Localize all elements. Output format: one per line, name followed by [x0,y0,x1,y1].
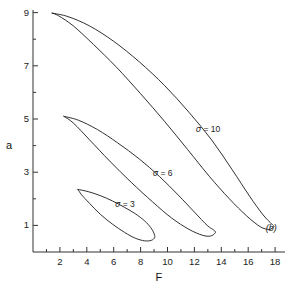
y-tick-label: 1 [15,219,29,230]
x-tick-label: 10 [157,256,179,267]
x-tick-label: 16 [237,256,259,267]
tick-marks [33,13,275,252]
series-annotation: σ = 6 [153,168,173,178]
x-tick-label: 12 [183,256,205,267]
x-tick-label: 2 [49,256,71,267]
x-tick-label: 6 [103,256,125,267]
y-tick-label: 5 [15,113,29,124]
y-tick-label: 9 [15,7,29,18]
y-axis-title: a [6,139,12,151]
curve-3-loop [78,189,155,240]
series-annotation: σ = 3 [115,199,135,209]
curve-10-loop [52,13,274,229]
axis-spines [33,10,285,252]
curve-6-loop [64,116,216,236]
x-tick-label: 14 [210,256,232,267]
y-tick-label: 7 [15,60,29,71]
panel-label: (b) [266,223,277,233]
x-tick-label: 4 [76,256,98,267]
y-tick-label: 3 [15,166,29,177]
x-tick-label: 8 [130,256,152,267]
figure-panel: F a 2468101214161813579σ = 10σ = 6σ = 3(… [0,0,291,302]
series-annotation: σ = 10 [196,124,221,134]
x-tick-label: 18 [264,256,286,267]
x-axis-title: F [155,271,162,283]
